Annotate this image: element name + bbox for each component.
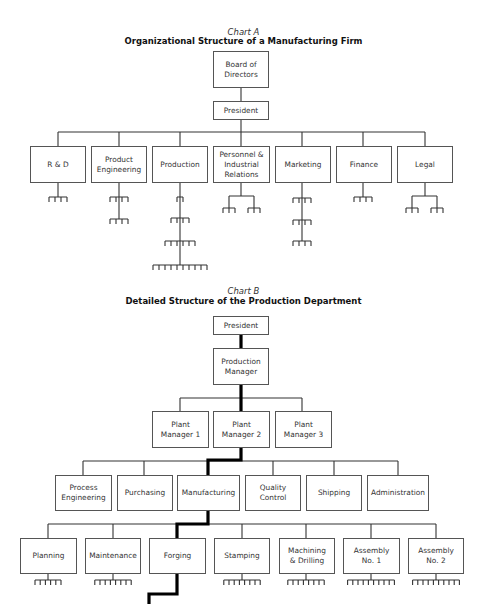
org-node-forging: Forging: [149, 538, 206, 574]
org-node-marketing: Marketing: [275, 146, 331, 183]
org-charts-page: Chart A Organizational Structure of a Ma…: [0, 0, 487, 604]
org-node-assembly-1: Assembly No. 1: [343, 538, 400, 574]
org-node-production: Production: [152, 146, 208, 183]
org-node-purchasing: Purchasing: [117, 475, 173, 511]
org-node-manufacturing: Manufacturing: [177, 475, 240, 511]
org-node-president: President: [213, 316, 269, 335]
org-node-planning: Planning: [20, 538, 77, 574]
chart-a-title: Organizational Structure of a Manufactur…: [0, 36, 487, 46]
org-node-stamping: Stamping: [214, 538, 270, 574]
org-node-administration: Administration: [367, 475, 429, 511]
org-node-assembly-2: Assembly No. 2: [408, 538, 464, 574]
org-node-rd: R & D: [30, 146, 86, 183]
org-node-maintenance: Maintenance: [85, 538, 141, 574]
org-node-board: Board of Directors: [213, 51, 269, 88]
org-node-legal: Legal: [397, 146, 453, 183]
org-node-finance: Finance: [336, 146, 392, 183]
org-node-process-engineering: Process Engineering: [55, 475, 112, 511]
org-node-plant-manager-3: Plant Manager 3: [275, 411, 332, 448]
org-node-plant-manager-2: Plant Manager 2: [213, 411, 270, 448]
org-node-quality-control: Quality Control: [245, 475, 301, 511]
org-node-personnel: Personnel & Industrial Relations: [213, 146, 270, 183]
org-node-machining-drilling: Machining & Drilling: [279, 538, 335, 574]
chart-b-label: Chart B: [0, 286, 487, 296]
org-node-production-manager: Production Manager: [213, 348, 269, 385]
org-node-product-engineering: Product Engineering: [91, 146, 147, 183]
org-node-plant-manager-1: Plant Manager 1: [152, 411, 209, 448]
chart-b-title: Detailed Structure of the Production Dep…: [0, 296, 487, 306]
org-node-president: President: [213, 101, 269, 120]
org-node-shipping: Shipping: [306, 475, 362, 511]
